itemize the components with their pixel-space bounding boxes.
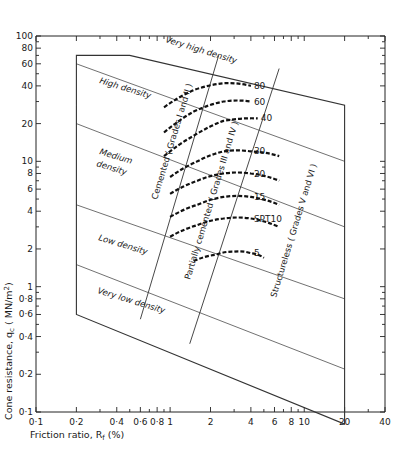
y-tick-label: 40 xyxy=(22,81,34,91)
curve-label: 30 xyxy=(254,146,266,156)
y-tick-label: 20 xyxy=(22,119,34,129)
x-tick-label: 0·4 xyxy=(110,417,125,427)
x-tick-label: 0·2 xyxy=(69,417,83,427)
cemented-label: Cemented ( Grades I and II ) xyxy=(149,82,194,200)
x-tick-label: 8 xyxy=(288,417,294,427)
y-tick-label: 4 xyxy=(27,206,33,216)
y-tick-label: 8 xyxy=(27,168,33,178)
curve-label: 40 xyxy=(261,113,273,123)
y-tick-label: 6 xyxy=(27,184,33,194)
y-tick-label: 60 xyxy=(22,59,34,69)
zone-label-low: Low density xyxy=(97,232,149,257)
axes xyxy=(36,36,385,412)
x-tick-label: 2 xyxy=(208,417,214,427)
curve-label: 5 xyxy=(254,248,260,258)
x-tick-label: 10 xyxy=(299,417,311,427)
x-tick-label: 4 xyxy=(248,417,254,427)
zone-label-very-low: Very low density xyxy=(96,285,167,315)
x-tick-label: 40 xyxy=(379,417,391,427)
x-tick-label: 0·1 xyxy=(29,417,43,427)
zone-label-very-high: Very high density xyxy=(164,34,239,66)
y-tick-label: 100 xyxy=(16,31,33,41)
curve-label: 20 xyxy=(254,169,266,179)
y-tick-label: 1 xyxy=(27,282,33,292)
curve-label: 15 xyxy=(254,192,265,202)
x-tick-label: 6 xyxy=(272,417,278,427)
y-tick-label: 0·4 xyxy=(19,332,34,342)
structureless-label: Structureless ( Grades V and VI ) xyxy=(268,162,318,298)
curve-label: 60 xyxy=(254,97,266,107)
x-tick-label: 0·6 xyxy=(133,417,148,427)
x-axis-title: Friction ratio, Rf (%) xyxy=(30,429,124,442)
y-tick-label: 0·8 xyxy=(19,294,34,304)
zone-label-high: High density xyxy=(98,75,153,100)
y-tick-label: 0·6 xyxy=(19,309,34,319)
y-tick-label: 10 xyxy=(22,156,34,166)
tick-marks xyxy=(36,36,385,412)
y-tick-label: 0·2 xyxy=(19,369,33,379)
y-tick-label: 2 xyxy=(27,244,33,254)
x-tick-label: 0·8 xyxy=(150,417,165,427)
curve-label: 80 xyxy=(254,81,266,91)
y-tick-label: 0·1 xyxy=(19,407,33,417)
density-boundary xyxy=(76,64,344,162)
x-tick-label: 1 xyxy=(167,417,173,427)
y-tick-label: 80 xyxy=(22,43,34,53)
curve-label: SPT10 xyxy=(254,214,282,224)
y-axis-title: Cone resistance, qc ( MN/m2) xyxy=(3,282,16,420)
density-curve-80 xyxy=(164,83,251,107)
curve-labels: 806040302015SPT105 xyxy=(254,81,282,258)
chart: 0·10·20·40·60·8124681020400·10·20·40·60·… xyxy=(0,0,404,450)
